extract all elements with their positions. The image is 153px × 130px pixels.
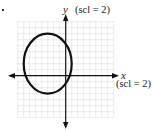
y-scale-label: (scl = 2)	[75, 5, 110, 16]
chart-plot	[0, 0, 153, 130]
x-axis-left-arrow-icon	[8, 73, 15, 78]
y-axis-label: y	[63, 4, 68, 15]
x-scale-label: (scl = 2)	[116, 79, 151, 90]
y-axis-letter: y	[63, 3, 68, 15]
y-axis-top-arrow-icon	[63, 14, 68, 21]
y-axis-bottom-arrow-icon	[63, 122, 68, 129]
